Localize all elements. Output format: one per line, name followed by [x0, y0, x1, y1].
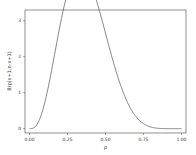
- x-axis-ticks: 0.000.250.500.751.00: [25, 133, 187, 142]
- y-axis-ticks: 0123: [18, 18, 25, 131]
- y-tick-label: 0: [18, 126, 21, 131]
- x-tick-label: 0.00: [25, 137, 35, 142]
- x-axis-label: p: [103, 144, 107, 151]
- y-tick-label: 2: [18, 54, 21, 59]
- beta-density-chart: 0123 0.000.250.500.751.00 p B(p|x+1,n-x+…: [0, 0, 196, 155]
- x-tick-label: 0.50: [100, 137, 110, 142]
- x-tick-label: 1.00: [176, 137, 186, 142]
- plot-frame: [25, 10, 186, 133]
- y-tick-label: 3: [18, 18, 21, 23]
- x-tick-label: 0.25: [63, 137, 73, 142]
- y-tick-label: 1: [18, 90, 21, 95]
- x-tick-label: 0.75: [138, 137, 148, 142]
- y-axis-label: B(p|x+1,n-x+1): [6, 51, 13, 90]
